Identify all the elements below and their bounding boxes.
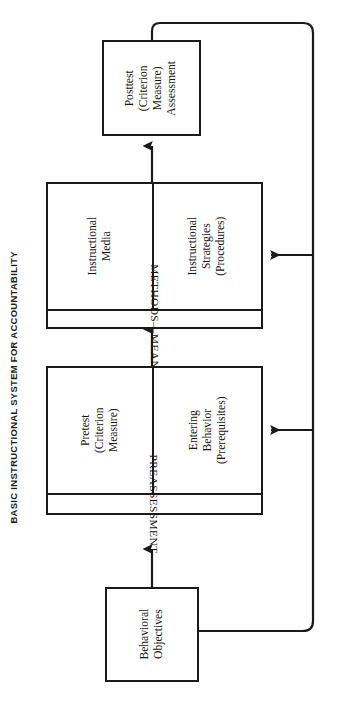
instructional-strategies-label: Instructional Strategies (Procedures) bbox=[186, 217, 228, 276]
entering-line-1: Entering bbox=[186, 397, 200, 465]
behavioral-objectives-content: Behavioral Objectives bbox=[107, 589, 197, 680]
entering-line-3: (Prerequisites) bbox=[215, 397, 229, 465]
strategies-line-2: Strategies bbox=[200, 217, 214, 276]
behavioral-objectives-label: Behavioral Objectives bbox=[138, 609, 166, 660]
cell-entering-behavior[interactable]: Entering Behavior (Prerequisites) bbox=[154, 368, 261, 493]
strategies-line-1: Instructional bbox=[186, 217, 200, 276]
pretest-line-3: Measure) bbox=[107, 408, 121, 454]
pretest-line-2: (Criterion bbox=[93, 408, 107, 454]
methods-band: METHODS—MEANS bbox=[48, 311, 261, 329]
posttest-line-1: Posttest bbox=[123, 61, 137, 116]
entering-line-2: Behavior bbox=[200, 397, 214, 465]
box-preassessment[interactable]: PREASSESSMENT Pretest (Criterion Measure… bbox=[46, 366, 263, 515]
cell-instructional-strategies[interactable]: Instructional Strategies (Procedures) bbox=[154, 184, 261, 309]
preassessment-band: PREASSESSMENT bbox=[48, 495, 261, 513]
media-line-1: Instructional bbox=[86, 217, 100, 276]
cell-pretest[interactable]: Pretest (Criterion Measure) bbox=[48, 368, 152, 493]
cell-instructional-media[interactable]: Instructional Media bbox=[48, 184, 152, 309]
strategies-line-3: (Procedures) bbox=[215, 217, 229, 276]
objectives-line-2: Objectives bbox=[152, 609, 166, 660]
posttest-line-4: Assessment bbox=[166, 61, 180, 116]
posttest-line-3: Measure) bbox=[152, 61, 166, 116]
objectives-line-1: Behavioral bbox=[138, 609, 152, 660]
media-line-2: Media bbox=[100, 217, 114, 276]
pretest-label: Pretest (Criterion Measure) bbox=[79, 408, 121, 454]
posttest-label: Posttest (Criterion Measure) Assessment bbox=[123, 61, 180, 116]
page-title: BASIC INSTRUCTIONAL SYSTEM FOR ACCOUNTAB… bbox=[8, 224, 19, 524]
box-methods-means[interactable]: METHODS—MEANS Instructional Media Instru… bbox=[46, 182, 263, 329]
instructional-media-label: Instructional Media bbox=[86, 217, 114, 276]
posttest-line-2: (Criterion bbox=[137, 61, 151, 116]
box-posttest[interactable]: Posttest (Criterion Measure) Assessment bbox=[102, 40, 201, 136]
diagram-canvas: BASIC INSTRUCTIONAL SYSTEM FOR ACCOUNTAB… bbox=[0, 0, 341, 706]
posttest-content: Posttest (Criterion Measure) Assessment bbox=[104, 42, 199, 134]
entering-behavior-label: Entering Behavior (Prerequisites) bbox=[186, 397, 228, 465]
box-behavioral-objectives[interactable]: Behavioral Objectives bbox=[105, 587, 199, 682]
pretest-line-1: Pretest bbox=[79, 408, 93, 454]
